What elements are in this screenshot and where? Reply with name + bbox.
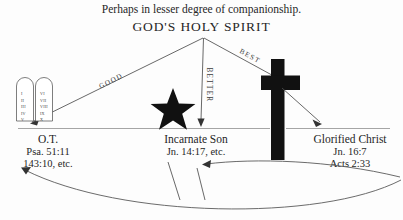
edge-label-better: BETTER <box>205 68 213 103</box>
node-title-glorified-christ: Glorified Christ <box>313 133 387 145</box>
arrowhead-return-incarnate <box>202 160 211 168</box>
diagram-canvas: Perhaps in lesser degree of companionshi… <box>0 0 403 220</box>
node-title-ot: O.T. <box>38 133 58 145</box>
star-icon <box>151 88 196 130</box>
arrowhead-best <box>313 120 323 128</box>
return-arrow-to-incarnate <box>206 161 400 177</box>
tablet-numeral: III <box>21 104 26 109</box>
arrowhead-better <box>197 119 204 128</box>
holy-spirit-progression-diagram: Perhaps in lesser degree of companionshi… <box>0 0 403 220</box>
tick-line-right <box>197 168 205 200</box>
tablet-numeral: IX <box>40 111 45 116</box>
stone-tablets-icon: I II III IV V VI VII VIII IX X <box>17 78 53 123</box>
tick-line-left <box>168 162 180 200</box>
edge-line-best <box>204 38 281 80</box>
edge-line-better <box>201 38 204 120</box>
arrowhead-return-ot <box>21 167 31 175</box>
tablet-numeral: VI <box>40 91 45 96</box>
node-ref-ot: Psa. 51:11 <box>26 146 69 157</box>
cross-icon <box>261 59 300 160</box>
top-note: Perhaps in lesser degree of companionshi… <box>102 3 301 16</box>
return-arrow-to-ot <box>25 170 401 209</box>
node-ref-incarnate-son: Jn. 14:17, etc. <box>167 146 226 157</box>
edge-line-best-lower <box>282 88 320 122</box>
tablet-numeral: IV <box>21 111 26 116</box>
node-ref-glorified-christ: Jn. 16:7 <box>333 146 366 157</box>
tablet-numeral: II <box>21 98 25 103</box>
tablet-numeral: X <box>40 117 43 122</box>
edge-label-best: BEST <box>238 47 262 65</box>
tablet-numeral: V <box>21 117 24 122</box>
page-title: GOD'S HOLY SPIRIT <box>132 19 270 34</box>
tablet-numeral: VIII <box>40 104 48 109</box>
tablet-numeral: VII <box>40 98 47 103</box>
edge-label-good: GOOD <box>98 72 125 91</box>
node-title-incarnate-son: Incarnate Son <box>164 133 228 145</box>
